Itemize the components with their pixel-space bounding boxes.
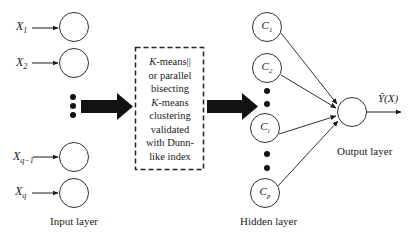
input-node-2 xyxy=(60,49,89,78)
box-line-5: clustering xyxy=(136,109,204,123)
input-node-1 xyxy=(60,13,89,42)
hidden-label-2: C2 xyxy=(252,60,282,75)
output-node xyxy=(338,98,367,127)
clustering-box-text: K-means|| or parallel bisecting K-means … xyxy=(136,55,204,163)
hidden-label-p: Cp xyxy=(250,185,280,200)
input-node-q xyxy=(60,179,89,208)
input-layer-label: Input layer xyxy=(50,215,98,227)
box-line-4: K-means xyxy=(136,96,204,110)
box-line-6: validated xyxy=(136,123,204,137)
box-line-1: K-means|| xyxy=(136,55,204,69)
input-ellipsis-icon xyxy=(70,94,76,118)
input-label-q-1: Xq−1 xyxy=(13,149,34,165)
hidden-label-i: Ci xyxy=(250,120,280,135)
input-label-2: X2 xyxy=(16,55,27,71)
diagram-canvas xyxy=(0,0,413,241)
hidden-to-output-arrows xyxy=(278,33,338,186)
flow-arrow-icon-1 xyxy=(81,93,133,120)
hidden-layer-label: Hidden layer xyxy=(240,215,297,227)
hidden-nodes xyxy=(251,13,282,208)
input-label-1: X1 xyxy=(16,19,27,35)
hidden-label-1: C1 xyxy=(252,19,282,34)
box-line-7: with Dunn- xyxy=(136,136,204,150)
output-layer-label: Output layer xyxy=(337,145,392,157)
box-line-8: like index xyxy=(136,150,204,164)
output-label: Ŷ(X) xyxy=(378,92,398,104)
flow-arrow-icon-2 xyxy=(207,93,258,120)
input-node-q-1 xyxy=(60,143,89,172)
input-arrows xyxy=(32,28,58,193)
box-line-3: bisecting xyxy=(136,82,204,96)
input-label-q: Xq xyxy=(15,184,26,200)
box-line-2: or parallel xyxy=(136,69,204,83)
